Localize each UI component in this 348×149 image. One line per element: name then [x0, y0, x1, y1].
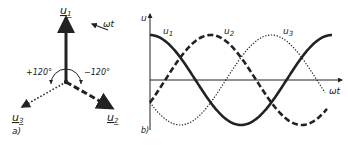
label-minus-120: −120°	[84, 68, 110, 77]
panel-a-label: a)	[12, 126, 21, 136]
label-plus-120: +120°	[26, 68, 52, 77]
panel-b-label: b)	[141, 126, 149, 135]
curve-label-u2: u2	[224, 26, 235, 38]
curve-label-u1: u1	[163, 26, 173, 38]
curve-label-u3: u3	[283, 26, 293, 38]
phasor-diagram: u1 u2 u3 ωt +120° −120° a)	[12, 4, 119, 136]
label-u3: u3	[12, 111, 23, 125]
label-u2: u2	[107, 111, 119, 125]
label-omega-t: ωt	[103, 19, 115, 29]
y-axis-label: u	[141, 13, 147, 23]
phasor-u2	[66, 82, 112, 108]
x-axis-label: ωt	[329, 86, 341, 96]
three-phase-figure: u1 u2 u3 ωt +120° −120° a) u ωt u1 u2 u3…	[0, 0, 348, 149]
phasor-u3	[22, 82, 66, 107]
label-u1: u1	[60, 4, 71, 18]
waveform-chart: u ωt u1 u2 u3 b)	[141, 13, 342, 135]
